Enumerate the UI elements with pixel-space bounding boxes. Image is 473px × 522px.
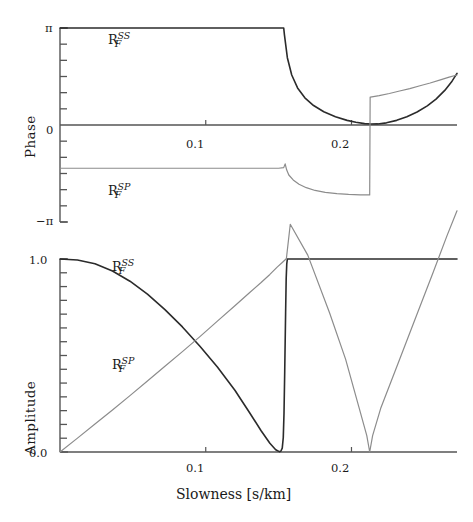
amplitude-label-rf-sp: RFSP xyxy=(112,355,134,374)
phase-panel: Phase π 0 −π 0.1 0.2 RFSS RFSP xyxy=(0,0,473,240)
amplitude-xtick-0-2: 0.2 xyxy=(331,461,349,475)
figure-root: Phase π 0 −π 0.1 0.2 RFSS RFSP Amplitude… xyxy=(0,0,473,522)
phase-ytick-neg-pi: −π xyxy=(36,214,53,228)
amplitude-ytick-0: 0.0 xyxy=(29,446,47,460)
amp-label-sp-sup: SP xyxy=(121,355,134,366)
amp-label-ss-sup: SS xyxy=(121,257,134,268)
amplitude-xtick-0-1: 0.1 xyxy=(186,461,204,475)
phase-ytick-zero: 0 xyxy=(46,123,53,137)
phase-label-sp-sup: SP xyxy=(117,181,130,192)
amplitude-panel: Amplitude 1.0 0.0 0.1 0.2 RFSS RFSP Slow… xyxy=(0,240,473,522)
amplitude-plot-area xyxy=(0,240,473,522)
phase-label-rf-sp: RFSP xyxy=(108,181,130,200)
phase-xtick-0-1: 0.1 xyxy=(186,137,204,151)
amplitude-axis-label: Amplitude xyxy=(22,381,38,455)
phase-plot-area xyxy=(0,0,473,240)
phase-xtick-0-2: 0.2 xyxy=(331,137,349,151)
phase-axis-label: Phase xyxy=(22,115,38,158)
amplitude-ytick-1: 1.0 xyxy=(29,253,47,267)
x-axis-label: Slowness [s/km] xyxy=(176,486,291,502)
amplitude-label-rf-ss: RFSS xyxy=(112,257,134,276)
phase-label-ss-sup: SS xyxy=(117,30,130,41)
phase-ytick-pi: π xyxy=(45,21,53,35)
phase-label-rf-ss: RFSS xyxy=(108,30,130,49)
